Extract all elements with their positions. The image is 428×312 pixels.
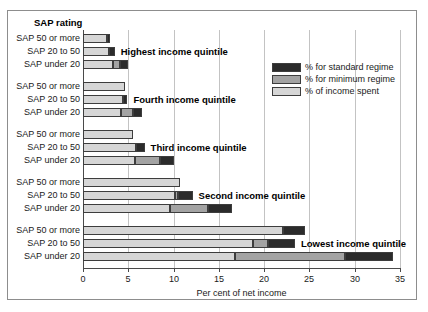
bar-segment-standard [345, 252, 393, 261]
bar-segment-minimum [113, 60, 120, 69]
x-tick [219, 268, 220, 272]
bar-segment-spent [83, 108, 121, 117]
bar-segment-spent [83, 191, 175, 200]
bar-segment-standard [136, 143, 144, 152]
table-row [83, 95, 127, 104]
bar-segment-standard [107, 34, 111, 43]
legend-swatch-spent [272, 87, 301, 96]
x-tick-label: 5 [113, 274, 143, 284]
table-row [83, 191, 193, 200]
x-tick [355, 268, 356, 272]
x-tick [174, 268, 175, 272]
category-label-column: SAP 50 or moreSAP 20 to 50SAP under 20SA… [8, 0, 80, 312]
bar-segment-standard [160, 156, 174, 165]
bar-segment-standard [283, 226, 305, 235]
x-axis-title: Per cent of net income [83, 288, 400, 298]
category-label: SAP 20 to 50 [27, 238, 80, 248]
group-label: Third income quintile [151, 142, 247, 153]
bar-segment-standard [268, 239, 295, 248]
table-row [83, 239, 295, 248]
table-row [83, 108, 142, 117]
category-label: SAP under 20 [24, 203, 80, 213]
table-row [83, 204, 232, 213]
bar-segment-minimum [170, 204, 208, 213]
table-row [83, 60, 128, 69]
legend-label: % for standard regime [305, 62, 394, 72]
legend-swatch-standard [272, 63, 301, 72]
x-tick-label: 25 [294, 274, 324, 284]
bar-segment-spent [83, 178, 180, 187]
bar-segment-minimum [135, 156, 160, 165]
x-tick-label: 15 [204, 274, 234, 284]
bar-segment-spent [83, 239, 253, 248]
bar-segment-spent [83, 82, 125, 91]
x-tick-label: 20 [249, 274, 279, 284]
x-tick [400, 268, 401, 272]
legend-label: % for minimum regime [305, 74, 395, 84]
table-row [83, 130, 133, 139]
category-label: SAP 20 to 50 [27, 46, 80, 56]
x-tick-label: 30 [340, 274, 370, 284]
category-label: SAP 20 to 50 [27, 94, 80, 104]
x-tick-label: 0 [68, 274, 98, 284]
bar-segment-standard [123, 95, 128, 104]
bar-segment-standard [120, 60, 128, 69]
bar-segment-spent [83, 130, 133, 139]
group-label: Highest income quintile [121, 46, 228, 57]
group-label: Second income quintile [199, 190, 306, 201]
category-label: SAP 20 to 50 [27, 142, 80, 152]
category-label: SAP 50 or more [16, 33, 80, 43]
category-label: SAP under 20 [24, 155, 80, 165]
bar-segment-standard [109, 47, 114, 56]
table-row [83, 226, 305, 235]
x-axis-line [83, 268, 401, 269]
category-label: SAP 20 to 50 [27, 190, 80, 200]
table-row [83, 47, 115, 56]
bar-segment-spent [83, 95, 123, 104]
category-label: SAP 50 or more [16, 177, 80, 187]
bar-segment-spent [83, 156, 135, 165]
bar-segment-spent [83, 204, 170, 213]
bar-segment-standard [133, 108, 142, 117]
x-tick-label: 35 [385, 274, 415, 284]
x-tick [309, 268, 310, 272]
category-label: SAP under 20 [24, 59, 80, 69]
table-row [83, 156, 174, 165]
category-label: SAP under 20 [24, 107, 80, 117]
category-label: SAP 50 or more [16, 129, 80, 139]
bar-segment-spent [83, 34, 107, 43]
table-row [83, 34, 110, 43]
bar-segment-standard [208, 204, 232, 213]
legend-label: % of income spent [305, 86, 379, 96]
bar-segment-spent [83, 226, 283, 235]
bar-segment-spent [83, 47, 109, 56]
x-tick [264, 268, 265, 272]
x-tick-label: 10 [159, 274, 189, 284]
group-label: Lowest income quintile [301, 238, 406, 249]
bar-segment-minimum [253, 239, 267, 248]
legend-swatch-minimum [272, 75, 301, 84]
gridline [400, 30, 401, 268]
group-label: Fourth income quintile [133, 94, 235, 105]
chart-figure: SAP rating SAP 50 or moreSAP 20 to 50SAP… [0, 0, 428, 312]
bar-segment-standard [178, 191, 192, 200]
category-label: SAP 50 or more [16, 225, 80, 235]
x-tick [83, 268, 84, 272]
table-row [83, 82, 125, 91]
category-label: SAP under 20 [24, 251, 80, 261]
bar-segment-minimum [121, 108, 133, 117]
bar-segment-minimum [235, 252, 345, 261]
bar-segment-spent [83, 60, 113, 69]
bar-segment-spent [83, 143, 136, 152]
bar-segment-spent [83, 252, 235, 261]
table-row [83, 143, 145, 152]
table-row [83, 178, 180, 187]
table-row [83, 252, 393, 261]
category-label: SAP 50 or more [16, 81, 80, 91]
x-tick [128, 268, 129, 272]
